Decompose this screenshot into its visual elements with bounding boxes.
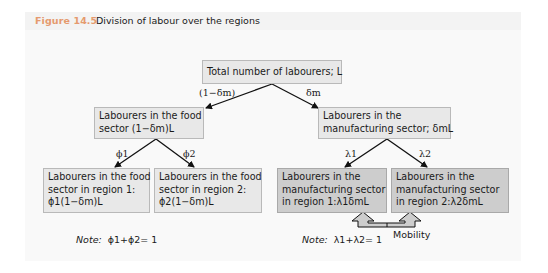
node-text: Labourers in the food bbox=[159, 171, 257, 184]
node-text: manufacturing sector bbox=[396, 184, 504, 197]
node-text: in region 2:λ2δmL bbox=[396, 196, 504, 209]
edge-label-total-food: (1−δm) bbox=[199, 87, 235, 98]
node-manufacturing-sector: Labourers in the manufacturing sector; δ… bbox=[318, 107, 451, 139]
mobility-label: Mobility bbox=[393, 229, 430, 240]
node-food-region-1: Labourers in the food sector in region 1… bbox=[43, 168, 150, 213]
node-manufacturing-region-1: Labourers in the manufacturing sector in… bbox=[277, 168, 387, 213]
node-text: Labourers in the bbox=[282, 171, 382, 184]
node-text: in region 1:λ1δmL bbox=[282, 196, 382, 209]
note-formula: ϕ1+ϕ2= 1 bbox=[108, 234, 158, 245]
node-text: Labourers in the bbox=[396, 171, 504, 184]
node-text: ϕ2(1−δm)L bbox=[159, 196, 257, 209]
node-text: Labourers in the bbox=[323, 110, 446, 123]
edge-label-manuf-region2: λ2 bbox=[419, 148, 431, 159]
node-food-region-2: Labourers in the food sector in region 2… bbox=[154, 168, 262, 213]
node-text: ϕ1(1−δm)L bbox=[48, 196, 145, 209]
note-prefix: Note: bbox=[302, 234, 328, 245]
edge-label-manuf-region1: λ1 bbox=[345, 148, 357, 159]
edge-label-food-region2: ϕ2 bbox=[183, 148, 196, 159]
edge-label-total-manufacturing: δm bbox=[306, 87, 321, 98]
node-text: Total number of labourers; L bbox=[207, 66, 337, 79]
node-text: sector (1−δm)L bbox=[99, 123, 199, 136]
note-formula: λ1+λ2= 1 bbox=[334, 234, 382, 245]
node-text: sector in region 2: bbox=[159, 184, 257, 197]
edge-label-food-region1: ϕ1 bbox=[116, 148, 129, 159]
node-text: manufacturing sector bbox=[282, 184, 382, 197]
connector-arrows bbox=[0, 0, 548, 273]
node-food-sector: Labourers in the food sector (1−δm)L bbox=[94, 107, 204, 139]
note-manufacturing: Note: λ1+λ2= 1 bbox=[302, 234, 382, 245]
node-text: Labourers in the food bbox=[99, 110, 199, 123]
node-text: sector in region 1: bbox=[48, 184, 145, 197]
node-text: manufacturing sector; δmL bbox=[323, 123, 446, 136]
mobility-arrow-icon bbox=[352, 212, 421, 227]
note-prefix: Note: bbox=[76, 234, 102, 245]
note-food: Note: ϕ1+ϕ2= 1 bbox=[76, 234, 157, 245]
node-text: Labourers in the food bbox=[48, 171, 145, 184]
node-manufacturing-region-2: Labourers in the manufacturing sector in… bbox=[391, 168, 509, 213]
node-total-labourers: Total number of labourers; L bbox=[202, 60, 342, 84]
